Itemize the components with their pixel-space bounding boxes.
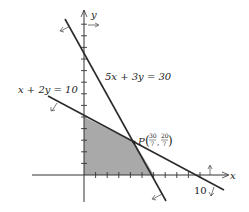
point-paren-close: ) xyxy=(168,134,173,148)
point-y-den: 7 xyxy=(163,140,167,147)
intersection-point xyxy=(132,140,135,143)
x-axis-label: x xyxy=(230,170,236,181)
y-axis-label: y xyxy=(90,9,97,20)
constraint-line-x-2y-10 xyxy=(48,96,224,190)
line-label-x-2y-10: x + 2y = 10 xyxy=(18,84,78,95)
point-comma: , xyxy=(157,138,160,147)
x-tick-label-10: 10 xyxy=(194,185,207,196)
line-label-5x-3y-30: 5x + 3y = 30 xyxy=(105,71,172,82)
point-x-num: 30 xyxy=(149,132,157,139)
point-label: P xyxy=(137,136,145,147)
point-x-den: 7 xyxy=(151,140,155,147)
lp-diagram: y x 10 5x + 3y = 30 x + 2y = 10 P ( 30 7… xyxy=(0,0,249,212)
